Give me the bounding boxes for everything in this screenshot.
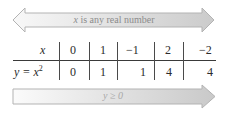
- x-value-0: 0: [70, 44, 76, 56]
- table-divider-1: [59, 42, 60, 80]
- table-divider-4: [154, 42, 155, 80]
- y-value-3: 4: [166, 66, 172, 78]
- x-value-3: 2: [165, 44, 171, 56]
- table-divider-5: [183, 42, 184, 80]
- y-value-0: 0: [70, 66, 76, 78]
- values-table: x 0 1 −1 2 −2 y = x2 0 1 1 4 4: [0, 0, 228, 117]
- row-header-x: x: [40, 44, 45, 56]
- y-value-2: 1: [140, 66, 146, 78]
- table-divider-2: [89, 42, 90, 80]
- table-divider-3: [117, 42, 118, 80]
- row-header-y-exponent: 2: [39, 64, 43, 73]
- x-value-1: 1: [100, 44, 106, 56]
- table-horizontal-rule: [13, 60, 216, 61]
- row-header-y: y = x2: [14, 66, 43, 78]
- x-value-4: −2: [199, 44, 212, 56]
- x-value-2: −1: [126, 44, 139, 56]
- row-header-y-text: y = x: [14, 65, 39, 79]
- y-value-4: 4: [207, 66, 213, 78]
- y-value-1: 1: [100, 66, 106, 78]
